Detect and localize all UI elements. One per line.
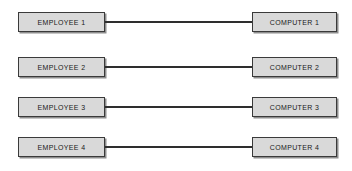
employee-node-2[interactable]: EMPLOYEE 2 [18,57,105,77]
computer-node-4[interactable]: COMPUTER 4 [252,137,337,157]
employee-node-label: EMPLOYEE 2 [38,64,86,71]
diagram-row: EMPLOYEE 1 COMPUTER 1 [0,12,352,34]
computer-node-3[interactable]: COMPUTER 3 [252,97,337,117]
computer-node-1[interactable]: COMPUTER 1 [252,12,337,32]
connector-line-2 [105,66,252,68]
connector-line-1 [105,21,252,23]
employee-node-1[interactable]: EMPLOYEE 1 [18,12,105,32]
employee-node-label: EMPLOYEE 1 [38,19,86,26]
employee-node-label: EMPLOYEE 3 [38,104,86,111]
employee-node-3[interactable]: EMPLOYEE 3 [18,97,105,117]
diagram-row: EMPLOYEE 2 COMPUTER 2 [0,57,352,79]
computer-node-label: COMPUTER 2 [270,64,319,71]
employee-node-label: EMPLOYEE 4 [38,144,86,151]
computer-node-label: COMPUTER 4 [270,144,319,151]
diagram-row: EMPLOYEE 4 COMPUTER 4 [0,137,352,159]
computer-node-label: COMPUTER 3 [270,104,319,111]
connector-line-3 [105,106,252,108]
relationship-diagram: EMPLOYEE 1 COMPUTER 1 EMPLOYEE 2 COMPUTE… [0,0,352,171]
computer-node-label: COMPUTER 1 [270,19,319,26]
computer-node-2[interactable]: COMPUTER 2 [252,57,337,77]
connector-line-4 [105,146,252,148]
employee-node-4[interactable]: EMPLOYEE 4 [18,137,105,157]
diagram-row: EMPLOYEE 3 COMPUTER 3 [0,97,352,119]
